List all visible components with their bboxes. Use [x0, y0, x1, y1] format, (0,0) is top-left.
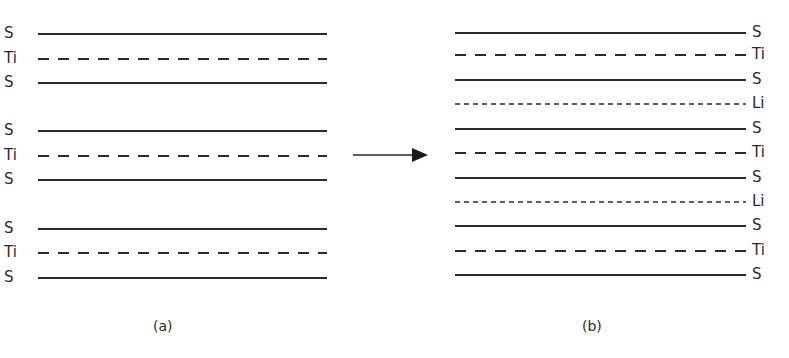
layer-label-ti: Ti: [4, 51, 17, 66]
layer-label-s: S: [4, 270, 14, 285]
intercalation-diagram: [0, 0, 789, 358]
layer-label-s: S: [752, 25, 762, 40]
layer-label-li: Li: [752, 194, 765, 209]
layer-label-li: Li: [752, 96, 765, 111]
layer-label-s: S: [4, 123, 14, 138]
layer-label-ti: Ti: [752, 47, 765, 62]
panel-a-layers: [38, 34, 327, 278]
layer-label-s: S: [752, 72, 762, 87]
panel-b-layers: [455, 33, 746, 275]
layer-label-s: S: [752, 267, 762, 282]
layer-label-s: S: [752, 170, 762, 185]
layer-label-ti: Ti: [752, 243, 765, 258]
layer-label-s: S: [752, 121, 762, 136]
layer-label-s: S: [752, 218, 762, 233]
panel-a-caption: (a): [153, 318, 173, 334]
panel-b-caption: (b): [582, 318, 602, 334]
layer-label-s: S: [4, 172, 14, 187]
layer-label-s: S: [4, 26, 14, 41]
layer-label-s: S: [4, 221, 14, 236]
layer-label-s: S: [4, 75, 14, 90]
arrow-right-icon: [353, 148, 428, 162]
layer-label-ti: Ti: [752, 145, 765, 160]
layer-label-ti: Ti: [4, 148, 17, 163]
layer-label-ti: Ti: [4, 245, 17, 260]
